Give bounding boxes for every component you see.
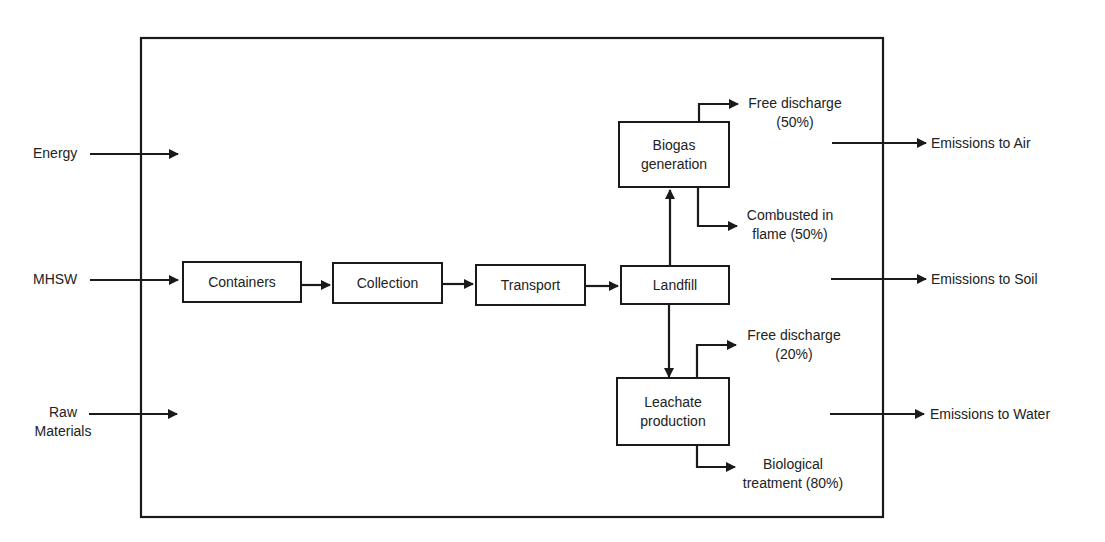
biogas-combusted-arrow	[698, 188, 737, 226]
landfill-box: Landfill	[620, 265, 730, 305]
leachate-production-box: Leachate production	[616, 377, 730, 446]
raw-materials-line1: Raw	[30, 403, 96, 422]
collection-label: Collection	[357, 274, 418, 293]
leachate-free-discharge-arrow	[697, 345, 736, 377]
biogas-free-discharge-label: Free discharge (50%)	[740, 94, 850, 132]
leachate-bio-line2: treatment (80%)	[733, 474, 853, 493]
output-water-label: Emissions to Water	[930, 405, 1050, 424]
biogas-line1: Biogas	[641, 136, 707, 155]
leachate-line2: production	[640, 412, 705, 431]
biogas-combusted-line1: Combusted in	[740, 206, 840, 225]
biogas-free-discharge-arrow	[699, 104, 738, 122]
biogas-free-line2: (50%)	[740, 113, 850, 132]
leachate-line1: Leachate	[640, 393, 705, 412]
input-energy-label: Energy	[33, 144, 77, 163]
biogas-combusted-line2: flame (50%)	[740, 225, 840, 244]
biogas-free-line1: Free discharge	[740, 94, 850, 113]
collection-box: Collection	[332, 262, 443, 304]
input-raw-materials-label: Raw Materials	[30, 403, 96, 441]
raw-materials-line2: Materials	[30, 422, 96, 441]
output-soil-label: Emissions to Soil	[931, 270, 1038, 289]
leachate-free-line2: (20%)	[739, 345, 849, 364]
input-mhsw-label: MHSW	[33, 270, 77, 289]
biogas-combusted-label: Combusted in flame (50%)	[740, 206, 840, 244]
containers-label: Containers	[208, 273, 276, 292]
biogas-generation-box: Biogas generation	[618, 121, 730, 188]
output-air-label: Emissions to Air	[931, 134, 1031, 153]
containers-box: Containers	[182, 261, 302, 303]
biogas-line2: generation	[641, 155, 707, 174]
leachate-biological-label: Biological treatment (80%)	[733, 455, 853, 493]
leachate-free-discharge-label: Free discharge (20%)	[739, 326, 849, 364]
landfill-label: Landfill	[653, 276, 697, 295]
leachate-bio-line1: Biological	[733, 455, 853, 474]
transport-label: Transport	[501, 276, 560, 295]
leachate-free-line1: Free discharge	[739, 326, 849, 345]
transport-box: Transport	[475, 264, 586, 306]
leachate-biological-arrow	[697, 446, 735, 467]
